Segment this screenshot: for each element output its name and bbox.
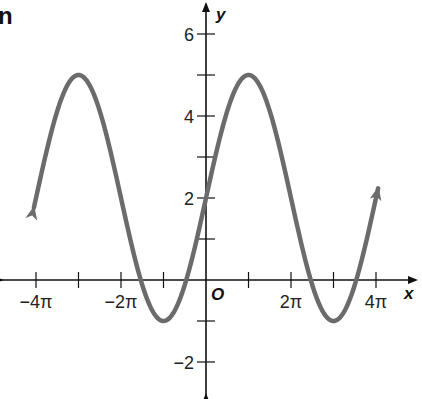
y-tick-label: −2 — [173, 353, 194, 373]
sine-graph: −4π−2π2π4π−2246yxO — [0, 0, 422, 399]
x-axis-label: x — [403, 284, 415, 303]
x-tick-label: −2π — [105, 292, 138, 312]
x-tick-label: 2π — [280, 292, 302, 312]
x-tick-label: −4π — [20, 292, 53, 312]
x-tick-label: 4π — [365, 292, 387, 312]
y-axis-label: y — [215, 5, 227, 24]
origin-label: O — [211, 285, 224, 304]
y-tick-label: 4 — [184, 107, 194, 127]
y-tick-label: 6 — [184, 25, 194, 45]
y-tick-label: 2 — [184, 189, 194, 209]
